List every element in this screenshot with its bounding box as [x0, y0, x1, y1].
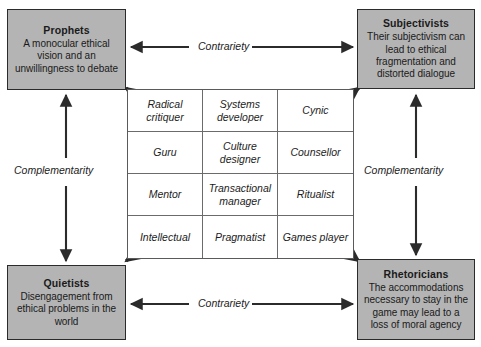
corner-box-rhetoricians: Rhetoricians The accommodations necessar… — [357, 259, 475, 340]
corner-title: Subjectivists — [383, 17, 449, 30]
corner-title: Rhetoricians — [384, 268, 449, 281]
corner-title: Prophets — [43, 24, 89, 37]
relation-label-complementarity-right: Complementarity — [361, 164, 446, 176]
grid-cell: Culture designer — [203, 132, 278, 174]
roles-grid: Radical critiquer Systems developer Cyni… — [127, 89, 354, 259]
relation-label-contrariety-top: Contrariety — [195, 40, 252, 52]
grid-cell: Ritualist — [278, 174, 353, 216]
corner-box-prophets: Prophets A monocular ethical vision and … — [7, 9, 126, 90]
grid-cell: Guru — [128, 132, 203, 174]
corner-description: Their subjectivism can lead to ethical f… — [363, 31, 469, 81]
grid-cell: Mentor — [128, 174, 203, 216]
grid-cell: Cynic — [278, 90, 353, 132]
corner-description: Disengagement from ethical problems in t… — [13, 291, 120, 328]
corner-box-subjectivists: Subjectivists Their subjectivism can lea… — [357, 9, 475, 89]
relation-label-complementarity-left: Complementarity — [11, 164, 96, 176]
corner-title: Quietists — [44, 277, 90, 290]
diagram-canvas: Radical critiquer Systems developer Cyni… — [0, 0, 481, 347]
grid-cell: Counsellor — [278, 132, 353, 174]
grid-cell: Intellectual — [128, 216, 203, 258]
corner-description: The accommodations necessary to stay in … — [363, 282, 469, 332]
relation-label-contrariety-bottom: Contrariety — [195, 297, 252, 309]
grid-cell: Systems developer — [203, 90, 278, 132]
grid-cell: Pragmatist — [203, 216, 278, 258]
corner-description: A monocular ethical vision and an unwill… — [13, 38, 120, 75]
grid-cell: Games player — [278, 216, 353, 258]
corner-box-quietists: Quietists Disengagement from ethical pro… — [7, 265, 126, 340]
grid-cell: Radical critiquer — [128, 90, 203, 132]
grid-cell: Transactional manager — [203, 174, 278, 216]
